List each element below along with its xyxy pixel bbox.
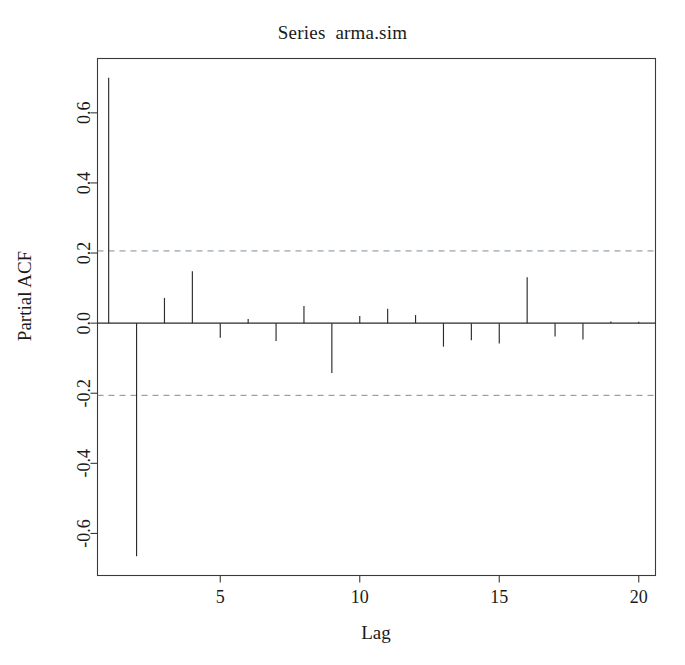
plot-box bbox=[98, 59, 656, 576]
y-tick-label: -0.4 bbox=[75, 449, 95, 478]
y-tick-label: -0.6 bbox=[75, 519, 95, 548]
y-tick-label: -0.2 bbox=[75, 379, 95, 408]
plot-frame bbox=[98, 59, 656, 576]
y-axis-ticks: 0.60.40.20.0-0.2-0.4-0.6 bbox=[75, 102, 98, 548]
x-tick-label: 10 bbox=[351, 587, 369, 607]
x-tick-label: 5 bbox=[216, 587, 225, 607]
x-tick-label: 20 bbox=[630, 587, 648, 607]
plot-canvas: 0.60.40.20.0-0.2-0.4-0.6 5101520 bbox=[0, 0, 685, 665]
y-tick-label: 0.2 bbox=[75, 242, 95, 265]
pacf-bars bbox=[109, 78, 639, 556]
pacf-figure: Series arma.sim Partial ACF Lag 0.60.40.… bbox=[0, 0, 685, 665]
x-axis-ticks: 5101520 bbox=[216, 576, 648, 607]
x-tick-label: 15 bbox=[490, 587, 508, 607]
y-tick-label: 0.0 bbox=[75, 312, 95, 335]
y-tick-label: 0.4 bbox=[75, 172, 95, 195]
y-tick-label: 0.6 bbox=[75, 102, 95, 125]
